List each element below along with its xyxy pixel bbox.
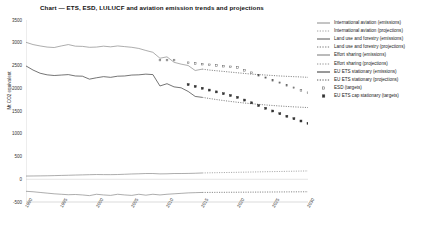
legend-swatch-solid-icon <box>316 19 334 27</box>
data-marker <box>279 113 281 115</box>
legend-swatch-solid-icon <box>316 35 334 43</box>
legend-item[interactable]: Land use and forestry (emissions) <box>316 35 439 43</box>
legend-label: EU ETS stationary (projections) <box>334 76 398 84</box>
legend-item[interactable]: EU ETS stationary (emissions) <box>316 68 439 76</box>
axis-lines <box>26 20 308 202</box>
series-line <box>26 42 202 70</box>
legend-swatch-dotted-icon <box>316 76 334 84</box>
data-marker <box>237 96 239 98</box>
legend-label: EU ETS stationary (emissions) <box>334 68 397 76</box>
y-axis-tick: 2500 <box>0 63 22 68</box>
data-marker <box>265 107 267 109</box>
legend-item[interactable]: EU ETS stationary (projections) <box>316 76 439 84</box>
legend-label: EU ETS cap stationary (targets) <box>334 92 399 100</box>
legend-swatch-dotted-icon <box>316 43 334 51</box>
series-line <box>26 173 202 176</box>
data-marker <box>201 63 203 65</box>
legend-item[interactable]: Land use and forestry (projections) <box>316 43 439 51</box>
data-marker <box>244 69 246 71</box>
legend-item[interactable]: Effort sharing (projections) <box>316 59 439 67</box>
y-axis-tick: 1500 <box>0 109 22 114</box>
data-marker <box>293 118 295 120</box>
data-marker <box>229 95 231 97</box>
legend-item[interactable]: Effort sharing (emissions) <box>316 51 439 59</box>
data-marker <box>159 59 161 61</box>
data-marker <box>258 74 260 76</box>
data-marker <box>279 82 281 84</box>
y-axis-tick: 1000 <box>0 131 22 136</box>
plot-area <box>26 20 308 202</box>
legend-swatch-filled-square-icon <box>316 92 334 100</box>
series-line <box>202 171 308 173</box>
series-line <box>202 69 308 77</box>
y-axis-tick: 2000 <box>0 86 22 91</box>
data-marker <box>258 105 260 107</box>
data-marker <box>300 89 302 91</box>
legend-swatch-solid-icon <box>316 51 334 59</box>
data-marker <box>244 99 246 101</box>
y-axis-tick: 0 <box>0 177 22 182</box>
legend-label: International aviation (emissions) <box>334 19 401 27</box>
data-marker <box>222 93 224 95</box>
data-marker <box>265 77 267 79</box>
data-marker <box>307 92 308 94</box>
y-axis-tick: 3500 <box>0 18 22 23</box>
data-marker <box>194 63 196 65</box>
legend-label: International aviation (projections) <box>334 27 403 35</box>
data-marker <box>272 110 274 112</box>
data-marker <box>293 87 295 89</box>
data-marker <box>251 102 253 104</box>
legend-label: Land use and forestry (projections) <box>334 43 405 51</box>
data-marker <box>173 59 175 61</box>
chart-svg <box>26 20 308 204</box>
data-marker <box>251 72 253 74</box>
data-marker <box>286 115 288 117</box>
data-marker <box>208 64 210 66</box>
legend-swatch-solid-icon <box>316 68 334 76</box>
y-axis-tick: 500 <box>0 154 22 159</box>
y-axis-tick: 3000 <box>0 40 22 45</box>
series-line <box>202 97 308 107</box>
data-marker <box>300 120 302 122</box>
data-marker <box>307 122 308 124</box>
y-axis-tick: -500 <box>0 200 22 205</box>
legend-label: Land use and forestry (emissions) <box>334 35 403 43</box>
data-marker <box>201 87 203 89</box>
data-marker <box>230 66 232 68</box>
data-marker <box>286 84 288 86</box>
chart-title: Chart — ETS, ESD, LULUCF and aviation em… <box>40 4 264 11</box>
data-marker <box>216 65 218 67</box>
legend-item[interactable]: ESD (targets) <box>316 84 439 92</box>
series-markers <box>187 84 308 125</box>
legend-label: Effort sharing (projections) <box>334 60 388 68</box>
data-marker <box>208 89 210 91</box>
legend-item[interactable]: EU ETS cap stationary (targets) <box>316 92 439 100</box>
data-marker <box>223 65 225 67</box>
series-line <box>202 192 308 193</box>
legend-item[interactable]: International aviation (emissions) <box>316 19 439 27</box>
legend-swatch-dotted-icon <box>316 27 334 35</box>
chart-page: Chart — ETS, ESD, LULUCF and aviation em… <box>0 0 439 236</box>
data-marker <box>237 67 239 69</box>
data-marker <box>187 62 189 64</box>
legend-swatch-dotted-icon <box>316 60 334 68</box>
data-marker <box>272 79 274 81</box>
data-marker <box>194 85 196 87</box>
data-marker <box>166 59 168 61</box>
legend-swatch-open-square-icon <box>316 84 334 92</box>
chart-legend: International aviation (emissions)Intern… <box>316 19 439 100</box>
series-line <box>26 66 202 97</box>
legend-label: ESD (targets) <box>334 84 362 92</box>
legend-item[interactable]: International aviation (projections) <box>316 27 439 35</box>
legend-label: Effort sharing (emissions) <box>334 51 386 59</box>
data-marker <box>215 91 217 93</box>
series-line <box>26 191 202 195</box>
data-marker <box>187 84 189 86</box>
